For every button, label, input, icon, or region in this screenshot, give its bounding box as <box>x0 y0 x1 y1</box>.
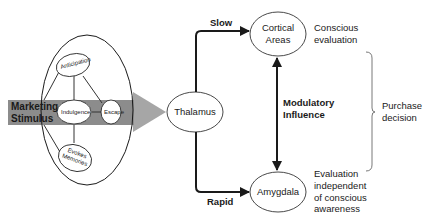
modulatory-label-line2: Influence <box>283 109 325 120</box>
stimulus-label-line2: Stimulus <box>11 113 53 124</box>
purchase-label-line2: decision <box>382 112 417 123</box>
slow-path-arrow <box>196 31 249 92</box>
indulgence-label: Indulgence <box>61 109 90 116</box>
independent-label-line2: independent <box>314 180 366 191</box>
cortical-label-line2: Areas <box>253 34 303 45</box>
amygdala-label: Amygdala <box>253 186 303 197</box>
independent-label-line1: Evaluation <box>314 168 358 179</box>
thalamus-label: Thalamus <box>170 106 220 117</box>
cortical-label-line1: Cortical <box>253 22 303 33</box>
modulatory-label-line1: Modulatory <box>283 97 334 108</box>
conscious-label-line1: Conscious <box>314 22 358 33</box>
independent-label-line4: awareness <box>314 203 360 214</box>
stimulus-label-line1: Marketing <box>11 101 58 112</box>
rapid-label: Rapid <box>207 196 233 207</box>
rapid-path-arrow <box>196 132 249 192</box>
escape-label: Escape <box>104 109 124 116</box>
purchase-bracket <box>366 52 375 171</box>
conscious-label-line2: evaluation <box>314 34 357 45</box>
independent-label-line3: of conscious <box>314 192 367 203</box>
stimulus-arrow-head <box>133 92 166 132</box>
purchase-label-line1: Purchase <box>382 100 422 111</box>
slow-label: Slow <box>210 17 232 28</box>
